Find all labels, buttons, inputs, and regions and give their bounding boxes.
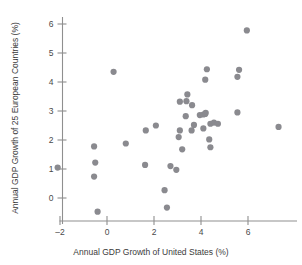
data-point <box>184 91 190 97</box>
data-point <box>179 146 185 152</box>
y-tick-label: 5 <box>49 48 54 58</box>
data-point <box>164 204 170 210</box>
y-axis-title: Annual GDP Growth of 25 European Countri… <box>10 22 20 214</box>
data-point <box>236 67 242 73</box>
data-point <box>275 124 281 130</box>
data-point <box>206 136 212 142</box>
y-tick-label: 2 <box>49 135 54 145</box>
data-point <box>123 140 129 146</box>
data-points <box>55 27 282 214</box>
data-point <box>244 27 250 33</box>
data-point <box>189 102 195 108</box>
data-point <box>202 111 208 117</box>
data-point <box>191 122 197 128</box>
x-axis: –20246 <box>55 216 297 237</box>
data-point <box>92 160 98 166</box>
data-point <box>204 66 210 72</box>
data-point <box>110 69 116 75</box>
data-point <box>142 162 148 168</box>
x-tick-label: –2 <box>55 227 65 237</box>
x-tick-label: 2 <box>152 227 157 237</box>
y-tick-label: 4 <box>49 77 54 87</box>
scatter-chart: 0123456 –20246 Annual GDP Growth of Unit… <box>0 0 302 265</box>
data-point <box>91 173 97 179</box>
data-point <box>91 143 97 149</box>
data-point <box>177 127 183 133</box>
x-axis-title: Annual GDP Growth of United States (%) <box>73 247 228 257</box>
data-point <box>234 109 240 115</box>
data-point <box>183 113 189 119</box>
data-point <box>189 127 195 133</box>
data-point <box>95 209 101 215</box>
data-point <box>167 163 173 169</box>
data-point <box>177 99 183 105</box>
plot-canvas: 0123456 –20246 Annual GDP Growth of Unit… <box>0 0 302 265</box>
data-point <box>207 144 213 150</box>
y-axis: 0123456 <box>49 17 67 224</box>
data-point <box>215 121 221 127</box>
y-tick-label: 1 <box>49 164 54 174</box>
data-point <box>161 187 167 193</box>
x-tick-label: 4 <box>199 227 204 237</box>
x-tick-label: 6 <box>246 227 251 237</box>
x-tick-label: 0 <box>105 227 110 237</box>
data-point <box>234 74 240 80</box>
data-point <box>176 134 182 140</box>
y-tick-label: 3 <box>49 106 54 116</box>
data-point <box>202 77 208 83</box>
y-tick-label: 6 <box>49 19 54 29</box>
data-point <box>200 125 206 131</box>
y-tick-label: 0 <box>49 193 54 203</box>
data-point <box>55 164 61 170</box>
data-point <box>143 127 149 133</box>
data-point <box>173 167 179 173</box>
data-point <box>183 98 189 104</box>
data-point <box>153 122 159 128</box>
